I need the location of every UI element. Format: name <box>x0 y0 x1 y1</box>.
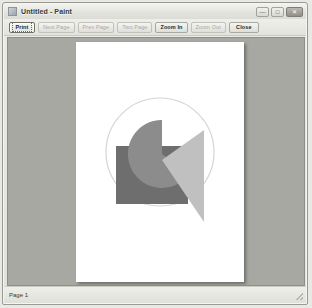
close-icon: ✕ <box>292 9 297 15</box>
print-preview-toolbar: Print Next Page Prev Page Two Page Zoom … <box>4 19 306 36</box>
title-bar[interactable]: Untitled - Paint — □ ✕ <box>4 4 306 19</box>
next-page-button-label: Next Page <box>43 24 70 30</box>
minimize-button[interactable]: — <box>256 7 269 17</box>
maximize-button[interactable]: □ <box>271 7 284 17</box>
close-preview-button-label: Close <box>236 24 251 30</box>
maximize-icon: □ <box>276 9 280 15</box>
zoom-in-button[interactable]: Zoom In <box>155 22 187 33</box>
preview-area[interactable] <box>7 37 305 286</box>
two-page-button[interactable]: Two Page <box>117 22 152 33</box>
print-button[interactable]: Print <box>9 22 35 33</box>
paint-app-icon <box>8 7 17 16</box>
canvas-artwork <box>76 42 244 282</box>
status-bar: Page 1 <box>4 286 306 303</box>
print-button-label: Print <box>14 24 29 30</box>
preview-page <box>76 42 244 282</box>
window-controls: — □ ✕ <box>256 7 303 17</box>
zoom-out-button[interactable]: Zoom Out <box>191 22 226 33</box>
app-root: Untitled - Paint — □ ✕ Print Next Page <box>0 0 312 308</box>
zoom-out-button-label: Zoom Out <box>196 24 221 30</box>
zoom-in-button-label: Zoom In <box>160 24 182 30</box>
close-window-button[interactable]: ✕ <box>286 7 303 17</box>
page-indicator: Page 1 <box>9 292 28 298</box>
prev-page-button[interactable]: Prev Page <box>78 22 115 33</box>
next-page-button[interactable]: Next Page <box>38 22 75 33</box>
window-title: Untitled - Paint <box>21 8 72 15</box>
minimize-icon: — <box>260 9 266 15</box>
two-page-button-label: Two Page <box>122 24 147 30</box>
close-preview-button[interactable]: Close <box>229 22 259 33</box>
paint-print-preview-window: Untitled - Paint — □ ✕ Print Next Page <box>2 2 308 305</box>
prev-page-button-label: Prev Page <box>83 24 110 30</box>
resize-grip[interactable] <box>294 291 303 300</box>
